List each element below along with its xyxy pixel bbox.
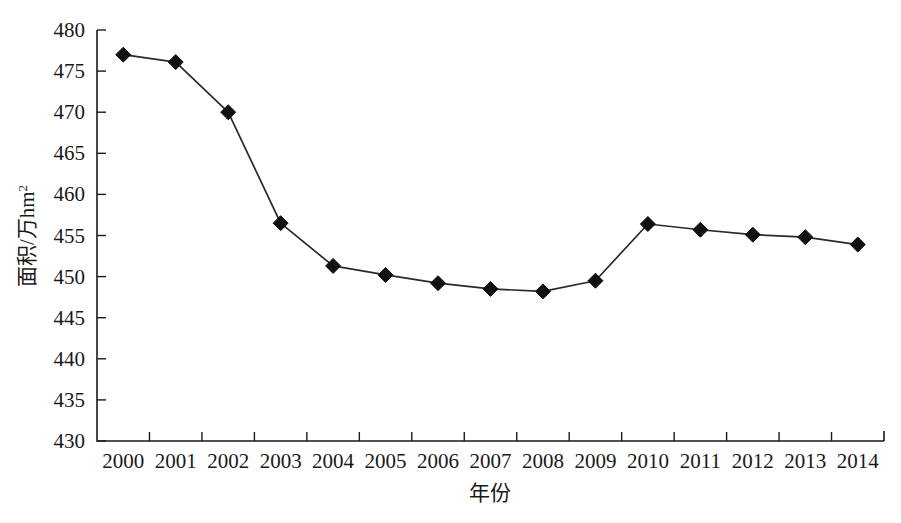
x-axis-tick-label: 2004 bbox=[312, 449, 355, 473]
y-axis-tick-label: 475 bbox=[54, 59, 86, 83]
x-axis-tick-label: 2002 bbox=[207, 449, 249, 473]
x-axis-tick-label: 2003 bbox=[260, 449, 302, 473]
x-axis-tick-label: 2000 bbox=[102, 449, 144, 473]
x-axis-tick-labels: 2000200120022003200420052006200720082009… bbox=[102, 449, 879, 473]
data-point-marker bbox=[693, 222, 708, 237]
x-axis-tick-label: 2005 bbox=[365, 449, 407, 473]
data-point-marker bbox=[850, 237, 865, 252]
x-axis-tick-label: 2013 bbox=[784, 449, 826, 473]
y-axis-tick-label: 470 bbox=[54, 100, 86, 124]
chart-svg: 430435440445450455460465470475480 200020… bbox=[0, 0, 901, 523]
y-axis-tick-label: 440 bbox=[54, 347, 86, 371]
data-series-line bbox=[123, 55, 858, 292]
x-axis-tick-label: 2006 bbox=[417, 449, 459, 473]
y-axis-tick-label: 435 bbox=[54, 388, 86, 412]
x-axis-tick-label: 2010 bbox=[627, 449, 669, 473]
y-axis-tick-label: 460 bbox=[54, 182, 86, 206]
y-axis-tick-label: 430 bbox=[54, 429, 86, 453]
data-point-markers bbox=[116, 47, 866, 299]
x-axis-tick-group bbox=[149, 432, 831, 441]
x-axis-tick-label: 2012 bbox=[732, 449, 774, 473]
x-axis-tick-label: 2014 bbox=[837, 449, 880, 473]
y-axis-tick-label: 480 bbox=[54, 18, 86, 42]
x-axis-tick-label: 2011 bbox=[680, 449, 721, 473]
data-point-marker bbox=[745, 227, 760, 242]
data-point-marker bbox=[116, 47, 131, 62]
x-axis-title-text: 年份 bbox=[469, 481, 511, 505]
y-axis-tick-labels: 430435440445450455460465470475480 bbox=[54, 18, 86, 453]
x-axis-tick-label: 2009 bbox=[574, 449, 616, 473]
data-point-marker bbox=[431, 276, 446, 291]
y-axis-tick-label: 455 bbox=[54, 224, 86, 248]
data-point-marker bbox=[798, 230, 813, 245]
data-point-marker bbox=[378, 267, 393, 282]
data-point-marker bbox=[483, 281, 498, 296]
y-axis-tick-label: 450 bbox=[54, 265, 86, 289]
line-chart-figure: 430435440445450455460465470475480 200020… bbox=[0, 0, 901, 523]
x-axis-tick-label: 2001 bbox=[155, 449, 197, 473]
y-axis-tick-label: 445 bbox=[54, 306, 86, 330]
y-axis-title-text: 面积/万hm2 bbox=[15, 185, 39, 287]
y-axis-tick-label: 465 bbox=[54, 141, 86, 165]
y-axis-title: 面积/万hm2 bbox=[15, 185, 39, 287]
chart-canvas: 430435440445450455460465470475480 200020… bbox=[0, 0, 901, 523]
data-point-marker bbox=[535, 284, 550, 299]
x-axis-tick-label: 2008 bbox=[522, 449, 564, 473]
x-axis-tick-label: 2007 bbox=[470, 449, 512, 473]
y-axis-tick-group bbox=[97, 30, 106, 441]
